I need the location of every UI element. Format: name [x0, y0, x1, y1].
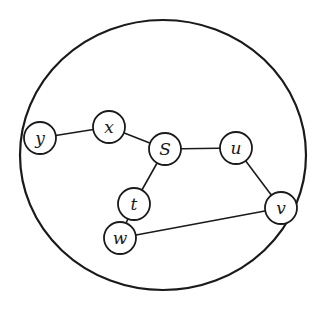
node-label: y	[34, 128, 45, 148]
node-label: t	[131, 194, 138, 214]
node-S: S	[149, 133, 181, 165]
graph-diagram: yxSutvw	[0, 0, 323, 309]
node-label: w	[113, 228, 128, 248]
node-label: S	[159, 139, 171, 159]
node-t: t	[118, 188, 150, 220]
node-label: u	[231, 138, 242, 158]
node-u: u	[220, 132, 252, 164]
node-w: w	[104, 222, 136, 254]
node-label: x	[104, 117, 114, 137]
node-y: y	[24, 122, 56, 154]
node-v: v	[265, 192, 297, 224]
node-layer: yxSutvw	[24, 111, 297, 254]
node-label: v	[276, 198, 286, 218]
node-x: x	[93, 111, 125, 143]
